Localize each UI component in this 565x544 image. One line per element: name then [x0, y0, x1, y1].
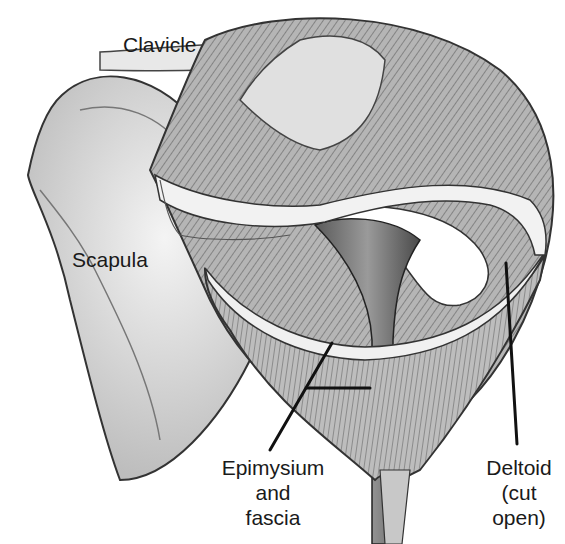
label-scapula: Scapula — [72, 247, 148, 272]
label-epimysium-line1: Epimysium — [214, 455, 332, 480]
label-deltoid-line3: open) — [478, 505, 560, 530]
label-epimysium-and-fascia: Epimysium and fascia — [214, 455, 332, 530]
label-scapula-text: Scapula — [72, 248, 148, 271]
label-deltoid-line2: (cut — [478, 480, 560, 505]
shoulder-anatomy-diagram: Clavicle Scapula Epimysium and fascia De… — [0, 0, 565, 544]
label-clavicle-text: Clavicle — [123, 33, 197, 56]
label-epimysium-line3: fascia — [214, 505, 332, 530]
label-deltoid-line1: Deltoid — [478, 455, 560, 480]
label-clavicle: Clavicle — [123, 32, 197, 57]
deltoid-tendon — [380, 470, 410, 544]
label-epimysium-line2: and — [214, 480, 332, 505]
label-deltoid-cut-open: Deltoid (cut open) — [478, 455, 560, 530]
